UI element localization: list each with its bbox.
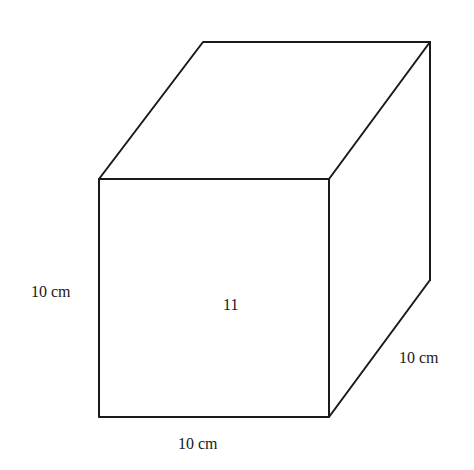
width-label: 10 cm [178, 436, 218, 452]
top-face [99, 42, 430, 179]
depth-label: 10 cm [399, 350, 439, 366]
face-number-label: 11 [223, 297, 238, 313]
cube-diagram [0, 0, 474, 470]
front-face [99, 179, 329, 417]
height-label: 10 cm [31, 284, 71, 300]
